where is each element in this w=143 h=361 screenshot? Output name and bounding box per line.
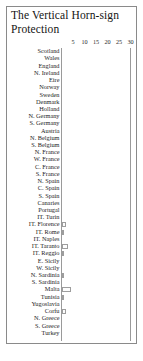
bar-row: IT. Turin — [6, 214, 137, 221]
bar-row: Austria — [6, 127, 137, 134]
bar — [62, 230, 64, 235]
bar-row: S. Sardinia — [6, 279, 137, 286]
bar-row: Corfu — [6, 308, 137, 315]
bar-row: N. Sardinia — [6, 272, 137, 279]
bar-row: N. Germany — [6, 113, 137, 120]
plot-wrapper: 51015202530 ScotlandWalesEnglandN. Irela… — [6, 38, 137, 343]
bar-row: Norway — [6, 84, 137, 91]
x-tick-label: 30 — [127, 38, 133, 46]
bar-row: IT. Naples — [6, 236, 137, 243]
bar-row: S. Greece — [6, 322, 137, 329]
bar-row: N. France — [6, 149, 137, 156]
bar-row: IT. Reggio — [6, 250, 137, 257]
bar-row: Canaries — [6, 200, 137, 207]
bar-row: S. Spain — [6, 192, 137, 199]
bar-row: N. Ireland — [6, 70, 137, 77]
bar-row: C. France — [6, 164, 137, 171]
bar-row: S. Germany — [6, 120, 137, 127]
bar-row: Yugoslavia — [6, 301, 137, 308]
bar-row: IT. Florence — [6, 221, 137, 228]
bar-row: E. Sicily — [6, 257, 137, 264]
bar-row: Tunisia — [6, 293, 137, 300]
x-tick-label: 10 — [81, 38, 87, 46]
chart-figure: The Vertical Horn-sign Protection 510152… — [0, 0, 143, 361]
bar-rows: ScotlandWalesEnglandN. IrelandEireNorway… — [6, 48, 137, 341]
bar-row: W. Sicily — [6, 265, 137, 272]
bar — [62, 244, 69, 249]
bar-row: Sweden — [6, 91, 137, 98]
bar-row: Portugal — [6, 207, 137, 214]
bar-row: S. France — [6, 171, 137, 178]
bar-row: England — [6, 62, 137, 69]
bar-row: Eire — [6, 77, 137, 84]
bar-row: Wales — [6, 55, 137, 62]
bar — [62, 222, 67, 227]
bar-row: S. Belgium — [6, 142, 137, 149]
x-tick-label: 25 — [116, 38, 122, 46]
category-label: Turkey — [42, 329, 60, 337]
bar-row: N. Greece — [6, 315, 137, 322]
bar-row: Denmark — [6, 99, 137, 106]
bar-row: Malta — [6, 286, 137, 293]
bar-row: Scotland — [6, 48, 137, 55]
bar-row: N. Spain — [6, 178, 137, 185]
x-tick-label: 5 — [71, 38, 74, 46]
x-tick-label: 15 — [93, 38, 99, 46]
bar — [62, 309, 67, 314]
bar-row: IT. Taranto — [6, 243, 137, 250]
bar-row: C. Spain — [6, 185, 137, 192]
bar-row: N. Belgium — [6, 135, 137, 142]
bar — [62, 251, 64, 256]
bar — [62, 295, 64, 300]
x-tick-label: 20 — [104, 38, 110, 46]
bar-row: W. France — [6, 156, 137, 163]
chart-title: The Vertical Horn-sign Protection — [11, 9, 134, 36]
bar — [62, 273, 64, 278]
bar-row: Holland — [6, 106, 137, 113]
bar — [62, 287, 71, 292]
bar-row: IT. Rome — [6, 228, 137, 235]
bar-row: Turkey — [6, 330, 137, 337]
